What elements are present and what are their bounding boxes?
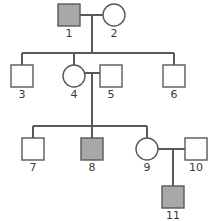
- individual-label-1: 1: [66, 27, 73, 40]
- individual-symbol-11[interactable]: [162, 186, 184, 208]
- individual-symbol-6[interactable]: [163, 65, 185, 87]
- individual-label-9: 9: [144, 161, 151, 174]
- individual-symbol-10[interactable]: [185, 138, 207, 160]
- individual-symbol-7[interactable]: [22, 138, 44, 160]
- individual-label-2: 2: [111, 27, 118, 40]
- individual-label-3: 3: [19, 88, 26, 101]
- individual-symbol-4[interactable]: [63, 65, 85, 87]
- individual-symbol-2[interactable]: [103, 4, 125, 26]
- individual-symbol-5[interactable]: [100, 65, 122, 87]
- individual-label-6: 6: [171, 88, 178, 101]
- individual-symbol-1[interactable]: [58, 4, 80, 26]
- individual-label-10: 10: [189, 161, 203, 174]
- individual-label-4: 4: [71, 88, 78, 101]
- pedigree-chart: 1234567891011: [0, 0, 213, 221]
- individual-label-5: 5: [108, 88, 115, 101]
- individual-symbol-8[interactable]: [81, 138, 103, 160]
- individual-label-8: 8: [89, 161, 96, 174]
- individual-label-11: 11: [166, 209, 180, 221]
- individual-symbol-3[interactable]: [11, 65, 33, 87]
- individual-label-7: 7: [30, 161, 37, 174]
- pedigree-canvas: 1234567891011: [0, 0, 213, 221]
- individual-symbol-9[interactable]: [136, 138, 158, 160]
- individual-symbols-layer: [11, 4, 207, 208]
